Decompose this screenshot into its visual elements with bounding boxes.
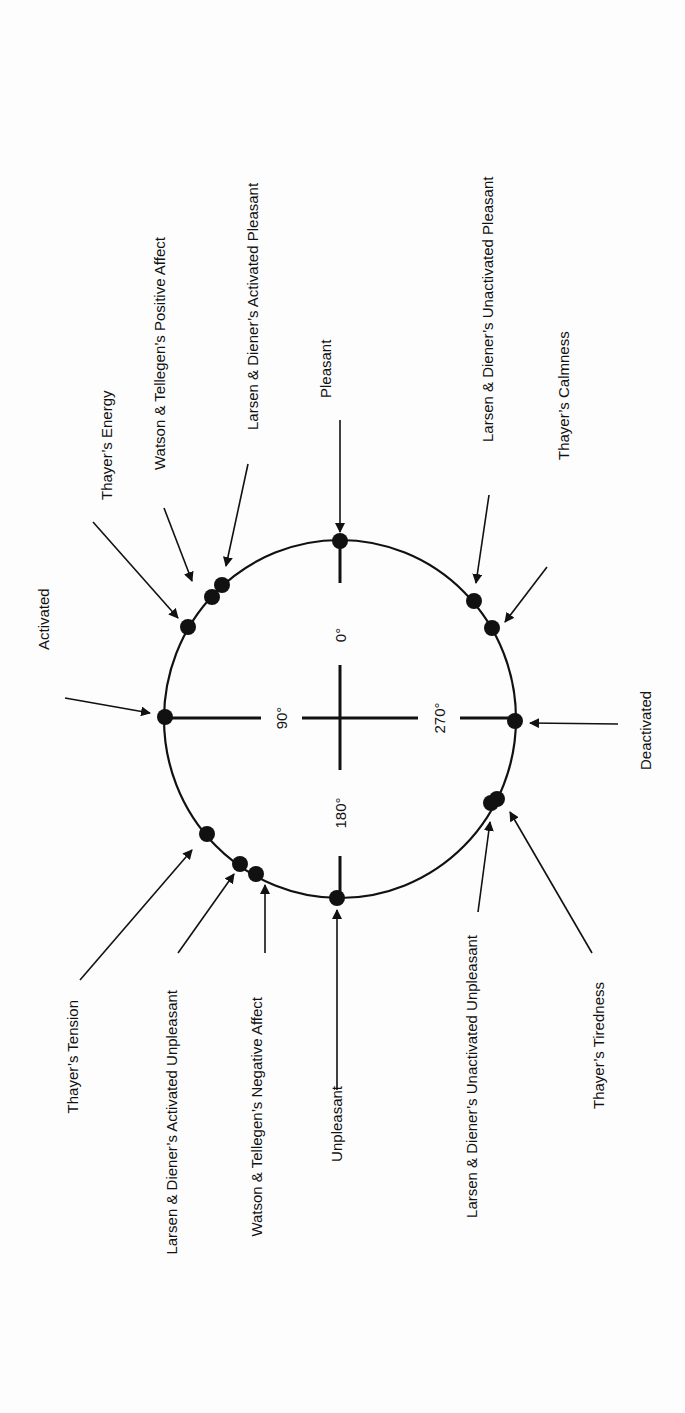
label-ld-unactivated-unpleasant: Larsen & Diener’s Unactivated Unpleasant [463, 934, 480, 1218]
arrow-thayer-tiredness [510, 812, 592, 953]
dot-thayer-energy [180, 619, 196, 635]
label-thayer-calmness: Thayer’s Calmness [555, 331, 572, 460]
dot-ld-unactivated-pleasant [466, 593, 482, 609]
dot-unpleasant [329, 890, 345, 906]
dot-thayer-tiredness [489, 791, 505, 807]
label-unpleasant: Unpleasant [328, 1085, 345, 1162]
arrow-thayer-energy [93, 522, 178, 618]
label-pleasant: Pleasant [317, 339, 334, 398]
arrow-wt-positive-affect [164, 508, 192, 581]
arrow-activated [65, 698, 150, 713]
arrow-ld-activated-pleasant [226, 464, 248, 566]
dot-ld-activated-unpleasant [232, 856, 248, 872]
arrow-ld-unactivated-pleasant [476, 495, 489, 583]
label-wt-positive-affect: Watson & Tellegen’s Positive Affect [151, 236, 168, 470]
label-deactivated: Deactivated [637, 691, 654, 770]
label-ld-unactivated-pleasant: Larsen & Diener’s Unactivated Pleasant [479, 176, 496, 442]
degree-label-90: 90° [273, 707, 290, 730]
degree-label-0: 0° [332, 628, 349, 642]
arrow-thayer-tension [80, 850, 192, 980]
dot-pleasant [332, 533, 348, 549]
label-thayer-tension: Thayer’s Tension [64, 1000, 81, 1113]
dot-thayer-tension [199, 826, 215, 842]
label-activated: Activated [35, 588, 52, 650]
circumplex-diagram: 0° 90° 180° 270° Thayer’s En [0, 0, 685, 1413]
degree-label-270: 270° [431, 702, 448, 733]
label-thayer-tiredness: Thayer’s Tiredness [590, 982, 607, 1109]
dot-thayer-calmness [484, 620, 500, 636]
label-thayer-energy: Thayer’s Energy [98, 390, 115, 500]
arrow-deactivated [530, 723, 618, 724]
label-wt-negative-affect: Watson & Tellegen’s Negative Affect [248, 996, 265, 1236]
dot-activated [157, 709, 173, 725]
dot-deactivated [507, 713, 523, 729]
label-ld-activated-unpleasant: Larsen & Diener’s Activated Unpleasant [163, 989, 180, 1254]
degree-label-180: 180° [332, 797, 349, 828]
arrow-ld-unactivated-unpleasant [478, 822, 490, 912]
arrow-ld-activated-unpleasant [178, 874, 234, 953]
label-ld-activated-pleasant: Larsen & Diener’s Activated Pleasant [244, 182, 261, 430]
arrow-thayer-calmness [505, 567, 547, 622]
dot-ld-activated-pleasant [214, 577, 230, 593]
dot-wt-negative-affect [248, 866, 264, 882]
